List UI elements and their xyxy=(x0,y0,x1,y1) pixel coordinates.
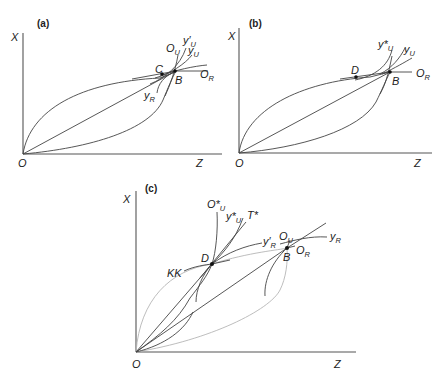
panel-b-point-B xyxy=(388,70,392,74)
panel-c-label-KK: KK xyxy=(167,267,182,279)
panel-c-label-yU-star: y*U xyxy=(225,210,242,225)
panel-a-y-axis-label: X xyxy=(10,31,19,43)
panel-c-label-OR: OR xyxy=(296,244,311,259)
panel-c-label-B: B xyxy=(283,251,290,263)
panel-a-label: (a) xyxy=(37,18,49,29)
panel-c-label: (c) xyxy=(145,183,157,194)
panel-b: (b) X Z O D B y*U yU OR xyxy=(227,18,432,169)
panel-c-point-D xyxy=(210,262,214,266)
panel-c: (c) X Z O D B O*U y*U T* y′R xyxy=(122,183,356,370)
panel-c-x-axis-label: Z xyxy=(333,358,342,370)
panel-b-label-D: D xyxy=(351,64,359,76)
panel-a-label-OU: OU xyxy=(166,42,181,57)
panel-a-label-yU: yU xyxy=(187,44,200,59)
panel-a-label-OR: OR xyxy=(200,68,215,83)
panel-b-origin-label: O xyxy=(235,157,244,169)
panel-a-x-axis-label: Z xyxy=(195,157,204,169)
panel-b-label-yU: yU xyxy=(403,43,416,58)
panel-c-label-T-star: T* xyxy=(247,209,259,221)
panel-a-point-B xyxy=(173,69,177,73)
panel-a-ray-OB xyxy=(23,71,176,154)
panel-a-label-C: C xyxy=(155,63,163,75)
panel-c-T-star-line xyxy=(200,222,246,278)
panel-c-label-OU-star: O*U xyxy=(207,198,226,213)
panel-a-label-yR: yR xyxy=(143,89,156,104)
panel-b-yU-star-curve xyxy=(355,50,392,80)
panel-b-label-OR: OR xyxy=(416,67,431,82)
panel-c-label-D: D xyxy=(201,252,209,264)
figure-canvas: (a) X Z O C B OU y′U yU OR yR (b) xyxy=(0,0,444,379)
panel-b-label: (b) xyxy=(249,18,262,29)
panel-c-origin-label: O xyxy=(132,358,141,370)
panel-b-label-yU-star: y*U xyxy=(377,38,394,53)
panel-b-y-axis-label: X xyxy=(227,30,236,42)
panel-c-label-yR-prime: y′R xyxy=(262,235,277,250)
panel-c-inner-ray xyxy=(136,298,190,352)
panel-a-label-B: B xyxy=(175,74,182,86)
panel-a: (a) X Z O C B OU y′U yU OR yR xyxy=(10,18,222,169)
panel-c-point-B xyxy=(285,246,289,250)
panel-c-y-axis-label: X xyxy=(122,193,131,205)
panel-b-x-axis-label: Z xyxy=(413,157,422,169)
panel-b-steep-curve xyxy=(380,56,392,94)
panel-b-label-B: B xyxy=(392,75,399,87)
panel-a-origin-label: O xyxy=(18,157,27,169)
panel-c-label-yR: yR xyxy=(329,230,342,245)
